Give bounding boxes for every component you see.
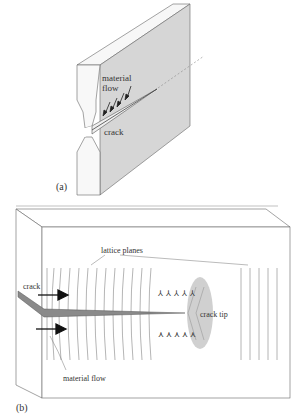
svg-text:⅄: ⅄	[157, 289, 163, 298]
panel-b: ⅄⅄⅄⅄⅄ ⋏⋏⋏⋏⋏ lattice planes crack crack t…	[16, 209, 290, 414]
svg-text:⋏: ⋏	[174, 330, 180, 339]
material-flow-label-line2: flow	[102, 83, 119, 93]
svg-text:⅄: ⅄	[165, 289, 171, 298]
svg-text:⋏: ⋏	[158, 330, 164, 339]
crack-label-a: crack	[104, 127, 124, 137]
panel-b-label: (b)	[16, 402, 28, 414]
block-b-top-face	[16, 209, 290, 227]
material-flow-label-b: material flow	[63, 374, 106, 383]
svg-text:⋏: ⋏	[190, 330, 196, 339]
crack-label-b: crack	[23, 282, 40, 291]
svg-text:⅄: ⅄	[181, 289, 187, 298]
panel-a: material flow crack (a)	[56, 4, 204, 195]
svg-text:⅄: ⅄	[173, 289, 179, 298]
block-end-face-upper	[77, 65, 100, 128]
crack-tip-label: crack tip	[200, 310, 228, 319]
svg-text:⋏: ⋏	[166, 330, 172, 339]
svg-text:⅄: ⅄	[189, 289, 195, 298]
figure: material flow crack (a)	[0, 0, 304, 418]
lattice-planes-label: lattice planes	[101, 246, 143, 255]
block-end-face-lower	[77, 137, 100, 195]
panel-a-label: (a)	[56, 181, 67, 193]
svg-text:⋏: ⋏	[182, 330, 188, 339]
material-flow-label-line1: material	[102, 73, 132, 83]
